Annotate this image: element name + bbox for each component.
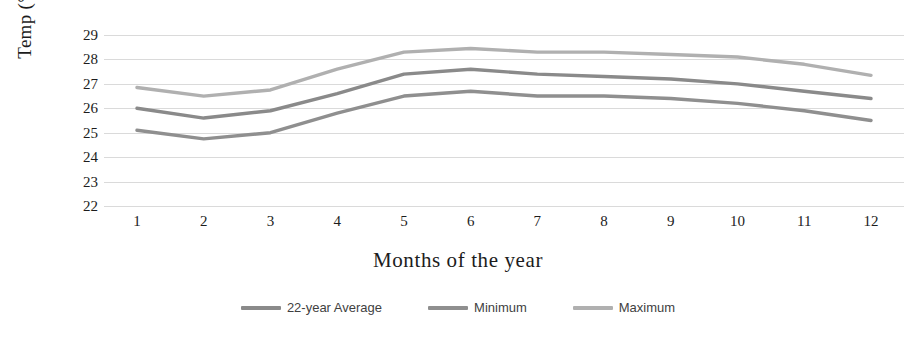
y-axis-tick-label: 27 xyxy=(83,75,98,92)
x-axis-tick-label: 8 xyxy=(600,213,608,230)
x-axis-tick-label: 11 xyxy=(797,213,811,230)
y-axis-title: Temp (°C) xyxy=(14,0,38,82)
legend-swatch-icon xyxy=(428,306,468,310)
x-axis-tick-label: 3 xyxy=(267,213,275,230)
legend-item[interactable]: Maximum xyxy=(573,300,675,315)
x-axis-tick-label: 1 xyxy=(133,213,141,230)
y-axis-tick-labels: 2223242526272829 xyxy=(56,35,98,206)
x-axis-tick-label: 7 xyxy=(534,213,542,230)
x-axis-title: Months of the year xyxy=(0,248,916,273)
x-axis-tick-label: 6 xyxy=(467,213,475,230)
gridline xyxy=(104,206,904,207)
plot-area xyxy=(104,35,904,206)
legend-item-label: Maximum xyxy=(619,300,675,315)
legend-item-label: Minimum xyxy=(474,300,527,315)
y-axis-tick-label: 28 xyxy=(83,51,98,68)
series-lines xyxy=(104,35,904,206)
y-axis-tick-label: 25 xyxy=(83,124,98,141)
y-axis-tick-label: 24 xyxy=(83,149,98,166)
x-axis-tick-label: 9 xyxy=(667,213,675,230)
x-axis-tick-label: 2 xyxy=(200,213,208,230)
x-axis-tick-label: 10 xyxy=(730,213,745,230)
temperature-line-chart: Temp (°C) 2223242526272829 1234567891011… xyxy=(0,0,916,347)
y-axis-tick-label: 22 xyxy=(83,198,98,215)
x-axis-tick-label: 4 xyxy=(333,213,341,230)
legend-item[interactable]: 22-year Average xyxy=(241,300,382,315)
chart-legend: 22-year AverageMinimumMaximum xyxy=(0,300,916,315)
y-axis-tick-label: 26 xyxy=(83,100,98,117)
legend-swatch-icon xyxy=(573,306,613,310)
x-axis-tick-label: 5 xyxy=(400,213,408,230)
x-axis-tick-labels: 123456789101112 xyxy=(104,213,904,235)
y-axis-tick-label: 29 xyxy=(83,27,98,44)
legend-item-label: 22-year Average xyxy=(287,300,382,315)
x-axis-tick-label: 12 xyxy=(864,213,879,230)
y-axis-tick-label: 23 xyxy=(83,173,98,190)
legend-swatch-icon xyxy=(241,306,281,310)
legend-item[interactable]: Minimum xyxy=(428,300,527,315)
